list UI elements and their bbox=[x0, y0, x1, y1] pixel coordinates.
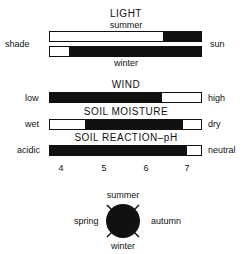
soil-ph-fill bbox=[50, 146, 187, 155]
soil-ph-title: SOIL REACTION–pH bbox=[0, 132, 252, 143]
ph-tick-5: 5 bbox=[101, 163, 106, 173]
soil-moisture-bar bbox=[49, 119, 202, 130]
soil-moisture-title: SOIL MOISTURE bbox=[0, 106, 252, 117]
light-summer-label: summer bbox=[0, 20, 252, 30]
wind-fill bbox=[50, 93, 162, 102]
soil-ph-right-label: neutral bbox=[208, 145, 236, 155]
soil-ph-bar bbox=[49, 145, 202, 156]
soil-moisture-left-label: wet bbox=[25, 119, 39, 129]
ph-tick-6: 6 bbox=[143, 163, 148, 173]
season-left-label: spring bbox=[74, 216, 99, 226]
light-left-label: shade bbox=[5, 39, 30, 49]
light-title: LIGHT bbox=[0, 8, 252, 19]
wind-left-label: low bbox=[25, 93, 39, 103]
light-winter-label: winter bbox=[0, 58, 252, 68]
light-winter-bar bbox=[49, 46, 202, 57]
wind-title: WIND bbox=[0, 79, 252, 90]
light-right-label: sun bbox=[210, 39, 225, 49]
soil-ph-left-label: acidic bbox=[17, 145, 40, 155]
light-winter-fill bbox=[69, 47, 201, 56]
ph-tick-7: 7 bbox=[184, 163, 189, 173]
wind-right-label: high bbox=[208, 93, 225, 103]
wind-bar bbox=[49, 92, 202, 103]
ph-tick-4: 4 bbox=[58, 163, 63, 173]
light-summer-fill bbox=[163, 32, 201, 41]
soil-moisture-fill bbox=[85, 120, 183, 129]
season-right-label: autumn bbox=[151, 216, 181, 226]
light-summer-bar bbox=[49, 31, 202, 42]
soil-moisture-right-label: dry bbox=[208, 119, 221, 129]
season-circle-icon bbox=[100, 198, 146, 244]
